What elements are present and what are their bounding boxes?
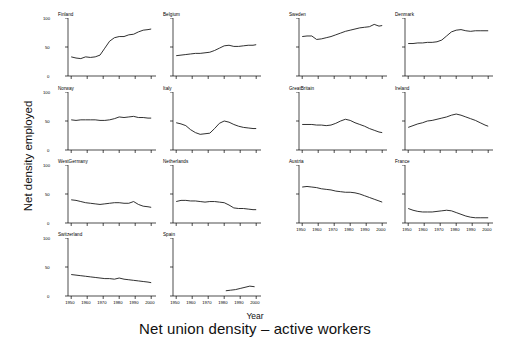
- series-line: [176, 45, 256, 56]
- panel-plot: [395, 18, 495, 82]
- x-tick-label: 1980: [344, 227, 353, 232]
- x-tick-label: 1980: [218, 300, 227, 305]
- x-tick-label: 2000: [482, 227, 491, 232]
- x-tick-label: 1970: [97, 300, 106, 305]
- panel-plot: [58, 165, 158, 229]
- y-tick-label: 100: [43, 236, 50, 241]
- series-line: [302, 186, 382, 202]
- x-tick-label: 2000: [145, 300, 154, 305]
- x-tick-label: 1970: [202, 300, 211, 305]
- series-line: [71, 275, 151, 283]
- y-tick-label: 50: [45, 119, 50, 124]
- x-tick-label: 1950: [65, 300, 74, 305]
- series-line: [71, 116, 151, 120]
- panel-plot: [289, 165, 389, 229]
- y-tick-label: 0: [47, 221, 49, 226]
- panel-plot: [58, 238, 158, 302]
- y-axis-label: Net density employed: [22, 76, 34, 236]
- x-tick-label: 1990: [129, 300, 138, 305]
- series-line: [302, 24, 382, 39]
- panel-plot: [395, 92, 495, 156]
- series-line: [71, 29, 151, 59]
- figure-title: Net union density – active workers: [0, 320, 510, 337]
- y-tick-label: 100: [43, 16, 50, 21]
- x-tick-label: 1980: [113, 300, 122, 305]
- series-line: [408, 114, 488, 127]
- x-tick-label: 1950: [402, 227, 411, 232]
- series-line: [408, 30, 488, 44]
- series-line: [302, 119, 382, 132]
- y-tick-label: 100: [43, 163, 50, 168]
- y-tick-label: 0: [47, 74, 49, 79]
- x-tick-label: 2000: [376, 227, 385, 232]
- y-tick-label: 100: [43, 90, 50, 95]
- x-tick-label: 1960: [81, 300, 90, 305]
- x-tick-label: 1990: [234, 300, 243, 305]
- x-tick-label: 1960: [418, 227, 427, 232]
- y-tick-label: 0: [47, 294, 49, 299]
- panel-plot: [163, 92, 263, 156]
- panel-plot: [58, 92, 158, 156]
- x-tick-label: 1950: [170, 300, 179, 305]
- x-tick-label: 1960: [186, 300, 195, 305]
- panel-plot: [163, 165, 263, 229]
- panel-plot: [289, 92, 389, 156]
- x-tick-label: 1960: [312, 227, 321, 232]
- x-tick-label: 1990: [360, 227, 369, 232]
- y-tick-label: 50: [45, 265, 50, 270]
- y-tick-label: 50: [45, 192, 50, 197]
- panel-plot: [395, 165, 495, 229]
- panel-plot: [163, 238, 263, 302]
- x-tick-label: 1990: [466, 227, 475, 232]
- panel-plot: [289, 18, 389, 82]
- x-tick-label: 1970: [434, 227, 443, 232]
- series-line: [176, 200, 256, 209]
- panel-plot: [58, 18, 158, 82]
- x-tick-label: 1970: [328, 227, 337, 232]
- series-line: [176, 121, 256, 134]
- panel-plot: [163, 18, 263, 82]
- x-tick-label: 1980: [450, 227, 459, 232]
- series-line: [71, 200, 151, 208]
- y-tick-label: 0: [47, 148, 49, 153]
- series-line: [226, 286, 255, 291]
- series-line: [408, 209, 488, 218]
- trellis-figure: Finland050100BelgiumSwedenDenmarkNorway0…: [0, 0, 510, 347]
- y-tick-label: 50: [45, 45, 50, 50]
- x-tick-label: 2000: [250, 300, 259, 305]
- x-tick-label: 1950: [296, 227, 305, 232]
